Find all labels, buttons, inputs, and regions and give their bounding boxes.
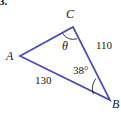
triangle-drawing <box>0 0 121 116</box>
vertex-label-b: B <box>112 98 119 110</box>
problem-number: 3. <box>0 0 7 7</box>
angle-label-theta: θ <box>62 40 68 52</box>
angle-label-b: 38° <box>73 65 88 76</box>
vertex-label-a: A <box>6 50 13 62</box>
triangle-figure: 3. A B C θ 110 130 38° <box>0 0 121 116</box>
side-label-ab: 130 <box>35 75 52 86</box>
side-label-cb: 110 <box>96 40 112 51</box>
triangle-outline <box>20 27 110 100</box>
vertex-label-c: C <box>66 8 74 20</box>
